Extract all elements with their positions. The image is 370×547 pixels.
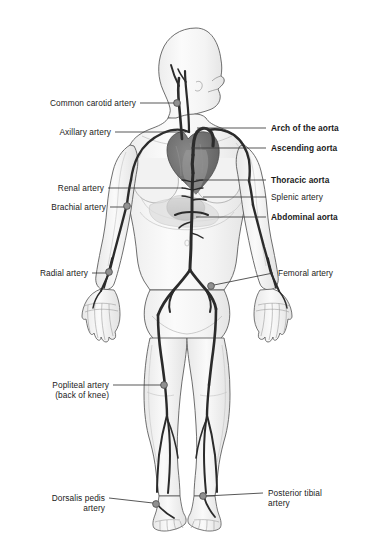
pulse-point-marker-dorsalis-pedis-artery bbox=[153, 501, 160, 508]
pulse-point-marker-radial-artery bbox=[106, 269, 113, 276]
pulse-point-marker-popliteal-artery bbox=[161, 382, 168, 389]
pulse-point-marker-posterior-tibial-artery bbox=[200, 493, 207, 500]
label-line: Thoracic aorta bbox=[271, 175, 329, 185]
splenic-artery-path bbox=[192, 199, 206, 200]
label-line: artery bbox=[52, 503, 105, 513]
label-line: artery bbox=[268, 498, 322, 508]
label-thoracic-aorta: Thoracic aorta bbox=[271, 175, 329, 185]
label-abdominal-aorta: Abdominal aorta bbox=[271, 212, 338, 222]
label-line: Axillary artery bbox=[60, 127, 112, 137]
label-arch-of-the-aorta: Arch of the aorta bbox=[271, 123, 339, 133]
leader-line-dorsalis-pedis-artery bbox=[109, 498, 153, 503]
label-radial-artery: Radial artery bbox=[40, 268, 88, 278]
label-popliteal-artery: Popliteal artery(back of knee) bbox=[52, 380, 109, 401]
label-common-carotid-artery: Common carotid artery bbox=[50, 98, 136, 108]
label-line: Dorsalis pedis bbox=[52, 493, 105, 503]
label-line: Arch of the aorta bbox=[271, 123, 339, 133]
label-line: Femoral artery bbox=[278, 268, 333, 278]
label-line: Radial artery bbox=[40, 268, 88, 278]
ascending-aorta-path bbox=[192, 155, 193, 173]
label-posterior-tibial-artery: Posterior tibialartery bbox=[268, 488, 322, 509]
label-line: Renal artery bbox=[58, 183, 104, 193]
label-ascending-aorta: Ascending aorta bbox=[271, 143, 337, 153]
label-line: Popliteal artery bbox=[52, 380, 109, 390]
label-line: Splenic artery bbox=[271, 192, 323, 202]
pulse-point-marker-femoral-artery bbox=[208, 283, 215, 290]
label-line: Brachial artery bbox=[51, 202, 106, 212]
label-line: Common carotid artery bbox=[50, 98, 136, 108]
label-dorsalis-pedis-artery: Dorsalis pedisartery bbox=[52, 493, 105, 514]
label-axillary-artery: Axillary artery bbox=[60, 127, 112, 137]
label-line: (back of knee) bbox=[52, 390, 109, 400]
label-splenic-artery: Splenic artery bbox=[271, 192, 323, 202]
label-line: Posterior tibial bbox=[268, 488, 322, 498]
label-femoral-artery: Femoral artery bbox=[278, 268, 333, 278]
label-brachial-artery: Brachial artery bbox=[51, 202, 106, 212]
pulse-point-marker-common-carotid-artery bbox=[174, 100, 181, 107]
label-line: Abdominal aorta bbox=[271, 212, 338, 222]
pulse-point-marker-brachial-artery bbox=[124, 203, 131, 210]
label-renal-artery: Renal artery bbox=[58, 183, 104, 193]
label-line: Ascending aorta bbox=[271, 143, 337, 153]
artery-diagram-figure: Common carotid arteryAxillary arteryRena… bbox=[0, 0, 370, 547]
head-outline bbox=[159, 28, 225, 120]
